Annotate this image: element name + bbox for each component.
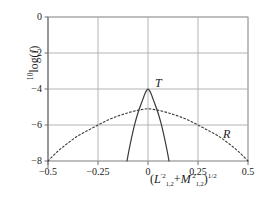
y-tick-label: −8 — [22, 156, 42, 166]
y-tick-label: −6 — [22, 120, 42, 130]
x-tick-label: 0.5 — [228, 167, 268, 177]
x-tick-label: 0.25 — [178, 167, 218, 177]
curve-annotation-t: T — [155, 76, 162, 91]
curve-annotation-r: R — [223, 127, 230, 142]
plot-figure: 10log(I) (L′21,2+M′21,2)1/2 0−2−4−6−8−0.… — [0, 0, 268, 197]
x-tick-label: −0.25 — [78, 167, 118, 177]
y-tick-label: −4 — [22, 84, 42, 94]
x-tick-label: −0.5 — [28, 167, 68, 177]
x-tick-label: 0 — [128, 167, 168, 177]
y-tick-label: 0 — [22, 12, 42, 22]
y-tick-label: −2 — [22, 48, 42, 58]
